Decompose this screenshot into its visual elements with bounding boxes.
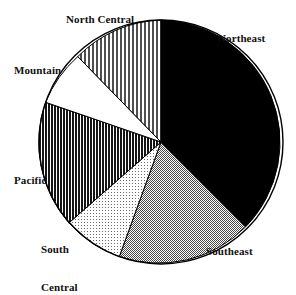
pie-label-south-central: South Central	[41, 218, 78, 295]
pie-label-north-central: North Central	[66, 13, 134, 26]
pie-label-mountain: Mountain	[14, 64, 61, 77]
pie-label-southeast: Southeast	[206, 245, 253, 258]
pie-label-south-central-line2: Central	[41, 281, 78, 294]
pie-label-south-central-line1: South	[41, 243, 78, 256]
pie-label-pacific: Pacific	[14, 174, 46, 187]
pie-label-northeast: Northeast	[218, 32, 265, 45]
